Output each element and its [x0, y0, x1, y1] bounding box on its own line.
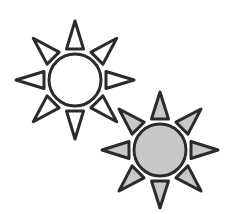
canvas-background	[0, 0, 233, 214]
sun-outline-icon	[16, 21, 134, 139]
sun-filled-disc	[134, 124, 186, 176]
image-canvas	[0, 0, 233, 214]
sun-icons-illustration	[0, 0, 233, 214]
sun-filled-icon	[102, 92, 218, 208]
sun-outline-disc	[49, 54, 101, 106]
